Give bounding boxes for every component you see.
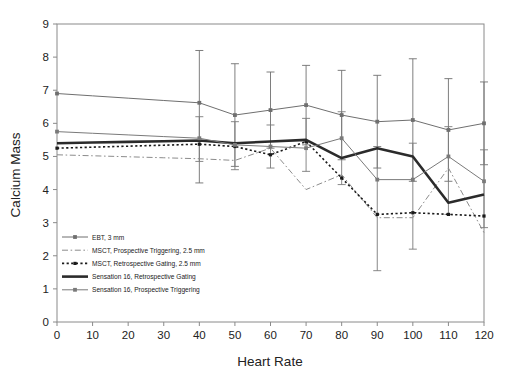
legend-item-4: Sensation 16, Prospective Triggering [62,286,200,294]
y-tick-label: 0 [43,316,49,328]
data-point-marker [482,214,485,217]
error-bar [338,112,346,185]
legend-label: Sensation 16, Retrospective Gating [92,273,196,281]
legend-label: EBT, 3 mm [92,234,125,241]
y-tick-label: 4 [43,184,50,196]
legend-item-2: MSCT, Retrospective Gating, 2.5 mm [62,260,201,268]
x-tick-label: 60 [264,329,277,341]
y-tick-label: 9 [43,18,49,30]
data-point-marker [269,108,273,112]
data-point-marker [375,178,379,182]
data-point-marker [233,143,237,147]
y-tick-label: 1 [43,283,49,295]
data-point-marker [233,113,237,117]
legend-label: MSCT, Prospective Triggering, 2.5 mm [92,247,205,255]
legend-item-0: EBT, 3 mm [62,234,125,241]
y-tick-label: 3 [43,217,49,229]
chart-legend: EBT, 3 mmMSCT, Prospective Triggering, 2… [62,234,205,295]
data-point-marker [411,211,414,214]
data-point-marker [411,178,415,182]
x-tick-label: 20 [122,329,135,341]
y-tick-label: 2 [43,250,49,262]
data-point-marker [304,146,308,150]
calcium-mass-vs-heart-rate-chart: 0123456789 0102030405060708090100110120 … [0,0,520,372]
y-axis-label: Calcium Mass [8,132,23,217]
error-bars [195,50,488,270]
x-tick-label: 100 [403,329,422,341]
data-point-marker [375,120,379,124]
data-point-marker [411,118,415,122]
data-point-marker [269,153,272,156]
data-point-marker [304,103,308,107]
data-point-marker [197,101,201,105]
x-tick-label: 0 [54,329,60,341]
data-point-marker [197,136,201,140]
x-tick-label: 70 [300,329,313,341]
data-point-marker [340,136,344,140]
x-tick-label: 80 [335,329,348,341]
x-tick-label: 10 [86,329,99,341]
x-axis-label: Heart Rate [237,354,302,369]
data-point-marker [55,130,59,134]
x-tick-label: 110 [439,329,457,341]
data-point-marker [198,143,201,146]
legend-swatch-marker [73,288,77,292]
y-tick-label: 7 [43,84,49,96]
data-point-marker [482,179,486,183]
y-tick-label: 6 [43,117,49,129]
y-tick-label: 5 [43,150,49,162]
data-point-marker [447,213,450,216]
legend-label: Sensation 16, Prospective Triggering [92,286,200,294]
y-tick-label: 8 [43,51,49,63]
data-point-marker [447,128,451,132]
data-point-marker [482,121,486,125]
data-point-marker [269,145,273,149]
legend-swatch-marker [73,262,76,265]
data-point-marker [55,92,59,96]
x-tick-label: 90 [371,329,384,341]
legend-label: MSCT, Retrospective Gating, 2.5 mm [92,260,201,268]
x-tick-label: 50 [229,329,242,341]
legend-item-1: MSCT, Prospective Triggering, 2.5 mm [62,247,205,255]
x-tick-label: 120 [474,329,493,341]
legend-item-3: Sensation 16, Retrospective Gating [62,273,196,281]
figure-container: 0123456789 0102030405060708090100110120 … [0,0,520,386]
data-point-marker [340,113,344,117]
y-axis-ticks: 0123456789 [43,18,57,328]
data-point-marker [376,213,379,216]
legend-swatch-marker [73,235,77,239]
x-tick-label: 30 [157,329,170,341]
data-point-marker [447,155,451,159]
error-bar [373,147,381,271]
data-point-marker [55,147,58,150]
x-axis-ticks: 0102030405060708090100110120 [54,322,494,341]
x-tick-label: 40 [193,329,206,341]
data-point-marker [340,176,343,179]
